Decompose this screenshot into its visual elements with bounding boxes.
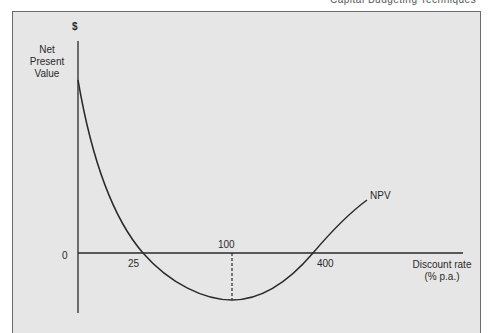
tick-label-100: 100: [218, 239, 235, 251]
npv-series-label: NPV: [370, 190, 391, 202]
page: Capital Budgeting Techniques $ Net Prese…: [0, 0, 492, 333]
npv-chart: [0, 0, 492, 333]
y-axis-title: Net Present Value: [24, 44, 70, 80]
x-title-line-2: (% p.a.): [402, 271, 482, 283]
tick-label-400: 400: [317, 258, 334, 270]
tick-label-25: 25: [128, 258, 139, 270]
zero-label: 0: [62, 250, 68, 262]
y-title-line-1: Net: [24, 44, 70, 56]
y-unit-label: $: [72, 21, 78, 33]
y-title-line-3: Value: [24, 68, 70, 80]
y-title-line-2: Present: [24, 56, 70, 68]
x-axis-title: Discount rate (% p.a.): [402, 259, 482, 283]
x-title-line-1: Discount rate: [402, 259, 482, 271]
